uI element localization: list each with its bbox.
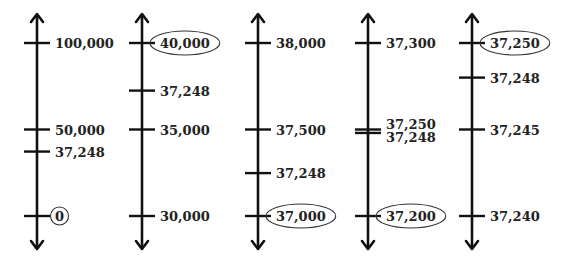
tick-label: 0 xyxy=(55,209,64,224)
tick-label: 37,240 xyxy=(490,209,540,224)
number-line-4: 37,30037,25037,24837,200 xyxy=(355,14,446,249)
tick-label: 40,000 xyxy=(160,36,210,51)
tick-label: 37,248 xyxy=(276,166,326,181)
number-line-3: 38,00037,50037,24837,000 xyxy=(245,14,336,249)
number-lines-diagram: 100,00050,00037,248040,00037,24835,00030… xyxy=(0,0,570,263)
number-line-2: 40,00037,24835,00030,000 xyxy=(129,14,220,249)
tick-label: 37,250 xyxy=(490,36,540,51)
tick-label: 37,245 xyxy=(490,123,540,138)
tick-label: 50,000 xyxy=(55,123,105,138)
tick-label: 37,000 xyxy=(276,209,326,224)
tick-label: 35,000 xyxy=(160,123,210,138)
tick-label: 37,248 xyxy=(55,145,105,160)
number-line-5: 37,25037,24837,24537,240 xyxy=(459,14,550,249)
tick-mark: 0 xyxy=(24,207,69,225)
tick-label: 100,000 xyxy=(55,36,114,51)
number-line-1: 100,00050,00037,2480 xyxy=(24,14,114,249)
tick-label: 37,248 xyxy=(160,84,210,99)
tick-label: 38,000 xyxy=(276,36,326,51)
tick-label: 37,248 xyxy=(490,71,540,86)
tick-label: 37,248 xyxy=(386,130,436,145)
tick-label: 30,000 xyxy=(160,209,210,224)
tick-label: 37,300 xyxy=(386,36,436,51)
tick-label: 37,500 xyxy=(276,123,326,138)
tick-label: 37,200 xyxy=(386,209,436,224)
